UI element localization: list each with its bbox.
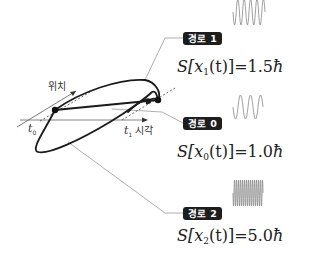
formula-value: (t)]=1.0 — [209, 142, 273, 161]
t1-time-label: t1 시각 — [124, 122, 153, 138]
formula-prefix: S[x — [177, 142, 203, 161]
t1-subscript: 1 — [128, 131, 132, 138]
position-axis-label: 위치 — [48, 78, 66, 93]
leader-line-path0 — [112, 109, 183, 123]
formula-value: (t)]=5.0 — [209, 226, 273, 245]
leader-line-path2 — [68, 142, 183, 213]
path-0-action-formula: S[x0(t)]=1.0ħ — [177, 142, 283, 162]
t0-subscript: 0 — [32, 129, 36, 136]
wave-path2-icon — [233, 180, 263, 206]
path-0-tag: 경로 0 — [183, 117, 222, 130]
hbar-unit: ħ — [273, 57, 283, 76]
hbar-unit: ħ — [273, 226, 283, 245]
position-axis-arrow-icon — [70, 91, 76, 96]
path-1-action-formula: S[x1(t)]=1.5ħ — [177, 57, 283, 77]
t0-dashed-guide — [40, 91, 92, 121]
path-1-tag: 경로 1 — [183, 32, 222, 45]
end-point — [155, 97, 161, 103]
formula-prefix: S[x — [177, 57, 203, 76]
path-2-action-formula: S[x2(t)]=5.0ħ — [177, 226, 283, 246]
wave-path1-icon — [233, 0, 265, 25]
formula-value: (t)]=1.5 — [209, 57, 273, 76]
start-point — [52, 107, 58, 113]
hbar-unit: ħ — [273, 142, 283, 161]
time-axis-label: 시각 — [135, 125, 153, 136]
t0-label: t0 — [28, 122, 36, 136]
formula-prefix: S[x — [177, 226, 203, 245]
wave-path0-icon — [233, 95, 263, 119]
path-2-tag: 경로 2 — [183, 207, 222, 220]
